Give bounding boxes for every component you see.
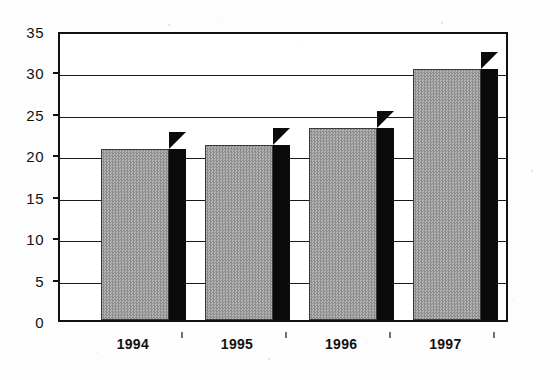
scan-speckle [96,352,97,353]
bar-front-face [205,145,273,320]
bar [309,111,394,320]
bar-top-bevel [377,111,394,128]
y-tick-label: 5 [35,272,44,289]
gridline [60,158,506,159]
scan-speckle [168,24,170,26]
bar-side-face [169,149,186,321]
x-tick-label: 1995 [221,336,253,352]
scan-speckle [441,22,443,24]
bar-top-bevel [481,52,498,69]
y-tick-label: 25 [26,106,44,123]
y-tick-label: 35 [26,24,44,41]
gridline [60,75,506,76]
y-tick-label: 20 [26,148,44,165]
gridline [60,241,506,242]
x-tick-label: 1997 [429,336,461,352]
x-tick-label: 1994 [117,336,149,352]
bar [205,128,290,320]
bar [413,52,498,320]
gridline [60,283,506,284]
x-axis: 1994199519961997 [58,330,508,360]
x-tick-mark [181,332,183,338]
scan-speckle [220,16,221,17]
y-tick-label: 30 [26,65,44,82]
scan-speckle [531,170,533,172]
y-tick-label: 10 [26,231,44,248]
x-tick-mark [493,332,495,338]
scan-speckle [512,300,513,301]
y-axis: 05101520253035 [0,0,58,380]
bar-front-face [101,149,169,321]
bar [101,132,186,321]
y-tick-label: 15 [26,189,44,206]
scan-speckle [367,342,368,343]
bar-chart: 05101520253035 1994199519961997 [0,0,560,380]
bar-side-face [273,145,290,320]
scan-speckle [40,110,41,111]
gridline [60,200,506,201]
scan-speckle [268,358,270,360]
bar-front-face [309,128,377,320]
x-tick-mark [389,332,391,338]
plot-area [58,32,508,322]
bars-layer [60,34,506,320]
y-tick-label: 0 [35,314,44,331]
x-tick-label: 1996 [325,336,357,352]
bar-side-face [377,128,394,320]
scan-speckle [300,45,301,46]
bar-top-bevel [169,132,186,149]
bar-top-bevel [273,128,290,145]
x-tick-mark [285,332,287,338]
gridline [60,117,506,118]
